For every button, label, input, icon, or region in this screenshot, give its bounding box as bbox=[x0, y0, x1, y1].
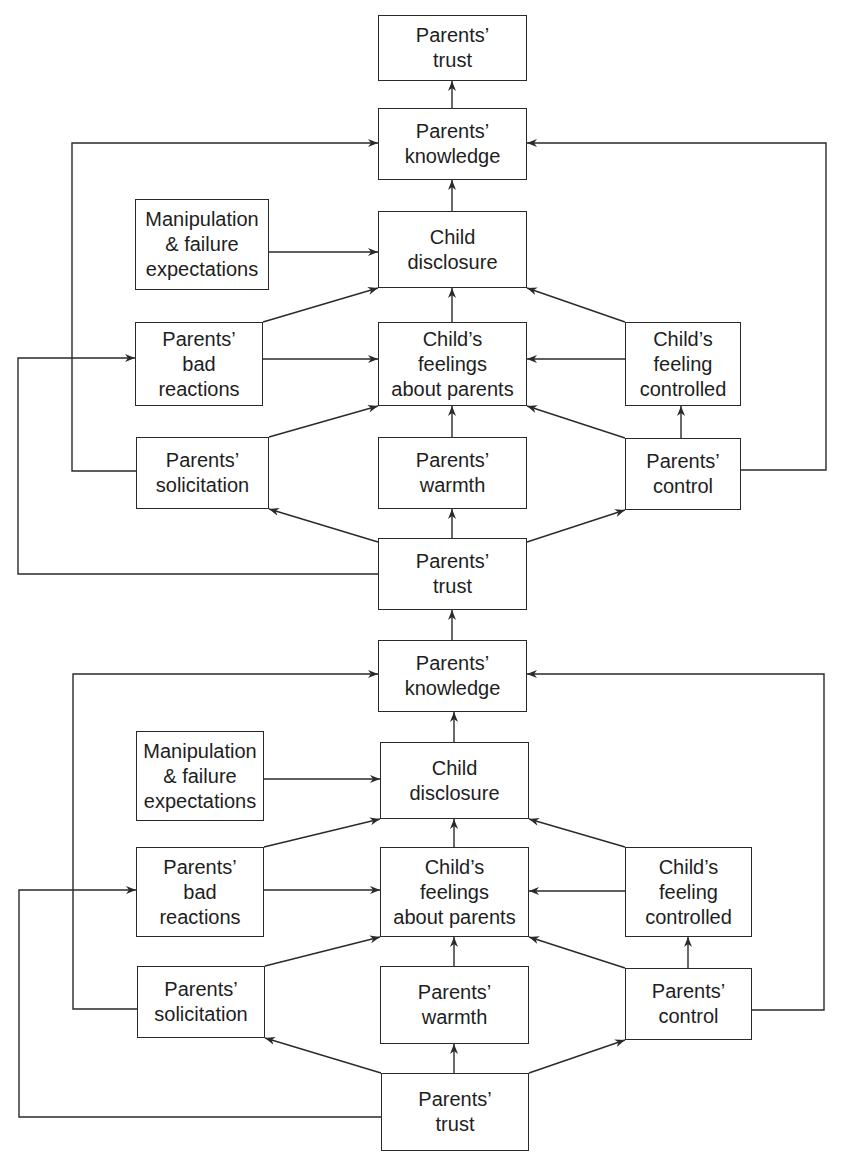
node-label: Parents’ warmth bbox=[416, 448, 489, 498]
node-label: Parents’ trust bbox=[418, 1087, 491, 1137]
node-t1_badreact: Parents’ bad reactions bbox=[135, 322, 263, 406]
node-label: Child’s feelings about parents bbox=[391, 327, 513, 402]
arrow-b_control-to-b_feelings bbox=[529, 937, 625, 968]
node-label: Parents’ knowledge bbox=[405, 651, 501, 701]
node-label: Parents’ trust bbox=[416, 23, 489, 73]
node-label: Parents’ control bbox=[646, 449, 719, 499]
node-label: Parents’ control bbox=[652, 979, 725, 1029]
node-mid_trust: Parents’ trust bbox=[378, 538, 527, 610]
arrow-t1_solicit-to-t1_knowledge bbox=[72, 143, 378, 471]
arrow-t1_feelctrl-to-t1_disclosure bbox=[527, 288, 625, 322]
node-b_feelctrl: Child’s feeling controlled bbox=[625, 847, 752, 937]
node-label: Parents’ bad reactions bbox=[159, 855, 240, 930]
node-label: Parents’ bad reactions bbox=[158, 327, 239, 402]
node-label: Child disclosure bbox=[409, 756, 499, 806]
arrow-t1_badreact-to-t1_disclosure bbox=[263, 288, 378, 322]
node-t1_knowledge: Parents’ knowledge bbox=[378, 108, 527, 180]
node-label: Parents’ knowledge bbox=[405, 119, 501, 169]
node-label: Parents’ solicitation bbox=[156, 448, 249, 498]
arrow-b_solicit-to-b_knowledge bbox=[73, 674, 378, 1009]
node-t1_manip: Manipulation & failure expectations bbox=[135, 199, 269, 290]
node-label: Child’s feeling controlled bbox=[640, 327, 727, 402]
node-b_feelings: Child’s feelings about parents bbox=[380, 847, 529, 937]
node-label: Manipulation & failure expectations bbox=[145, 207, 258, 282]
arrow-b_feelctrl-to-b_disclosure bbox=[529, 819, 625, 847]
node-t1_control: Parents’ control bbox=[625, 438, 741, 510]
node-b_manip: Manipulation & failure expectations bbox=[136, 731, 264, 821]
arrow-b_trust-to-b_control bbox=[529, 1040, 625, 1073]
node-t1_warmth: Parents’ warmth bbox=[378, 437, 527, 509]
node-b_trust: Parents’ trust bbox=[381, 1073, 529, 1151]
node-label: Manipulation & failure expectations bbox=[143, 739, 256, 814]
node-b_solicit: Parents’ solicitation bbox=[137, 966, 265, 1038]
arrow-b_solicit-to-b_feelings bbox=[265, 937, 380, 966]
arrow-t1_control-to-t1_feelings bbox=[527, 406, 625, 438]
node-b_knowledge: Parents’ knowledge bbox=[378, 640, 527, 712]
arrow-mid_trust-to-t1_control bbox=[527, 510, 625, 542]
arrow-b_control-to-b_knowledge bbox=[527, 674, 824, 1010]
arrow-mid_trust-to-t1_solicit bbox=[269, 509, 378, 542]
node-t1_trust_out: Parents’ trust bbox=[378, 15, 527, 81]
node-label: Child’s feeling controlled bbox=[645, 855, 732, 930]
node-label: Child’s feelings about parents bbox=[393, 855, 515, 930]
node-b_warmth: Parents’ warmth bbox=[380, 966, 529, 1044]
arrow-b_badreact-to-b_disclosure bbox=[264, 819, 380, 847]
node-b_control: Parents’ control bbox=[625, 968, 752, 1040]
node-label: Parents’ trust bbox=[416, 549, 489, 599]
arrow-b_trust-to-b_solicit bbox=[265, 1038, 381, 1073]
node-t1_disclosure: Child disclosure bbox=[378, 211, 527, 288]
arrow-t1_solicit-to-t1_feelings bbox=[269, 406, 378, 437]
node-b_badreact: Parents’ bad reactions bbox=[136, 847, 264, 937]
node-label: Parents’ solicitation bbox=[154, 977, 247, 1027]
node-t1_feelctrl: Child’s feeling controlled bbox=[625, 322, 741, 406]
node-t1_solicit: Parents’ solicitation bbox=[136, 437, 269, 509]
node-label: Parents’ warmth bbox=[418, 980, 491, 1030]
node-b_disclosure: Child disclosure bbox=[380, 742, 529, 819]
node-t1_feelings: Child’s feelings about parents bbox=[378, 322, 527, 406]
node-label: Child disclosure bbox=[407, 225, 497, 275]
